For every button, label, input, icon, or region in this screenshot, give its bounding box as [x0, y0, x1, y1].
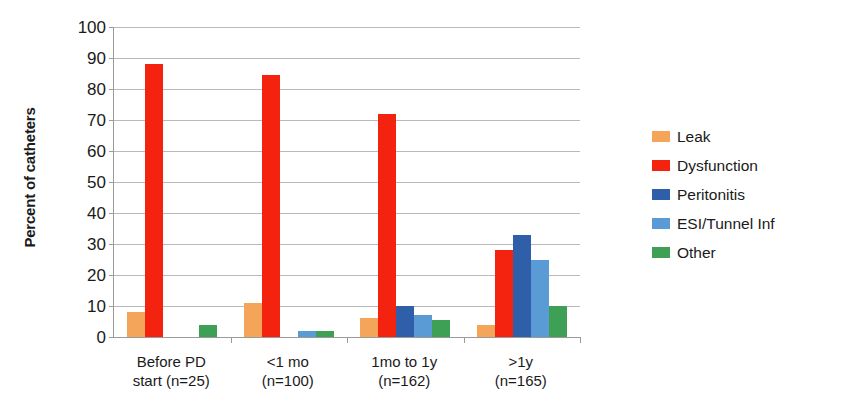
- legend-item: Dysfunction: [652, 151, 852, 180]
- y-axis-tick-mark: [109, 244, 114, 245]
- bar: [495, 250, 513, 337]
- bar-chart-figure: Percent of catheters 0102030405060708090…: [0, 0, 853, 401]
- bar: [262, 75, 280, 337]
- y-axis-tick-mark: [109, 120, 114, 121]
- y-axis-tick-label: 10: [46, 298, 106, 315]
- x-axis-tick-mark: [464, 337, 465, 343]
- y-axis-tick-label: 60: [46, 143, 106, 160]
- bar: [432, 320, 450, 337]
- legend-swatch-icon: [652, 247, 670, 258]
- legend-label: Leak: [677, 128, 711, 146]
- chart-legend: LeakDysfunctionPeritonitisESI/Tunnel Inf…: [652, 122, 852, 267]
- y-axis-tick-label: 50: [46, 174, 106, 191]
- y-axis-tick-label: 70: [46, 112, 106, 129]
- legend-swatch-icon: [652, 189, 670, 200]
- bar: [414, 315, 432, 337]
- bar-group: [477, 27, 567, 337]
- y-axis-tick-mark: [109, 27, 114, 28]
- y-axis-tick-label: 100: [46, 19, 106, 36]
- y-axis-tick-label: 0: [46, 329, 106, 346]
- plot-area: [113, 27, 580, 338]
- y-axis-tick-mark: [109, 275, 114, 276]
- y-axis-tick-labels: 0102030405060708090100: [40, 27, 106, 337]
- bar: [531, 260, 549, 338]
- bar-group: [127, 27, 217, 337]
- y-axis-tick-mark: [109, 306, 114, 307]
- bar: [199, 325, 217, 337]
- legend-label: ESI/Tunnel Inf: [677, 215, 775, 233]
- bar: [378, 114, 396, 337]
- y-axis-tick-mark: [109, 89, 114, 90]
- legend-item: Peritonitis: [652, 180, 852, 209]
- bar: [298, 331, 316, 337]
- bar: [513, 235, 531, 337]
- bar: [244, 303, 262, 337]
- x-axis-tick-label: Before PD start (n=25): [113, 352, 230, 390]
- y-axis-tick-label: 30: [46, 236, 106, 253]
- legend-swatch-icon: [652, 131, 670, 142]
- legend-swatch-icon: [652, 218, 670, 229]
- x-axis-tick-mark: [231, 337, 232, 343]
- bar: [549, 306, 567, 337]
- legend-label: Dysfunction: [677, 157, 758, 175]
- bar-group: [244, 27, 334, 337]
- y-axis-tick-mark: [109, 151, 114, 152]
- x-axis-tick-labels: Before PD start (n=25)<1 mo (n=100)1mo t…: [113, 352, 579, 398]
- x-axis-tick-label: <1 mo (n=100): [230, 352, 347, 390]
- y-axis-tick-label: 40: [46, 205, 106, 222]
- legend-item: Other: [652, 238, 852, 267]
- bar: [360, 318, 378, 337]
- legend-label: Peritonitis: [677, 186, 745, 204]
- y-axis-tick-mark: [109, 213, 114, 214]
- y-axis-tick-mark: [109, 58, 114, 59]
- legend-swatch-icon: [652, 160, 670, 171]
- y-axis-tick-label: 80: [46, 81, 106, 98]
- y-axis-tick-label: 20: [46, 267, 106, 284]
- x-axis-tick-label: >1y (n=165): [463, 352, 580, 390]
- bar: [145, 64, 163, 337]
- y-axis-tick-label: 90: [46, 50, 106, 67]
- bar: [316, 331, 334, 337]
- legend-item: ESI/Tunnel Inf: [652, 209, 852, 238]
- bar: [396, 306, 414, 337]
- x-axis-tick-mark: [580, 337, 581, 343]
- bar: [127, 312, 145, 337]
- y-axis-title-text: Percent of catheters: [21, 107, 38, 247]
- y-axis-tick-mark: [109, 337, 114, 338]
- legend-item: Leak: [652, 122, 852, 151]
- x-axis-tick-mark: [347, 337, 348, 343]
- y-axis-tick-mark: [109, 182, 114, 183]
- x-axis-tick-label: 1mo to 1y (n=162): [346, 352, 463, 390]
- legend-label: Other: [677, 244, 716, 262]
- bar-group: [360, 27, 450, 337]
- bar: [477, 325, 495, 337]
